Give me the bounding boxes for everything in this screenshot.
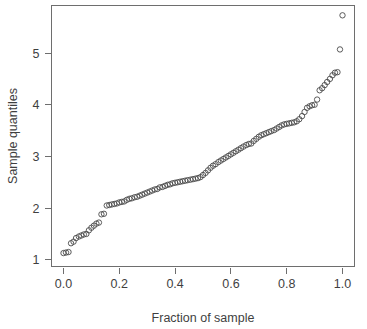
- y-axis-ticks: 12345: [33, 47, 51, 268]
- quantile-plot-figure: 0.00.20.40.60.81.0 12345 Fraction of sam…: [0, 0, 367, 329]
- x-tick-label: 0.6: [222, 277, 239, 291]
- y-tick-label: 3: [33, 150, 40, 164]
- data-point: [340, 13, 345, 18]
- data-point: [337, 47, 342, 52]
- x-tick-label: 0.2: [111, 277, 128, 291]
- x-axis-ticks: 0.00.20.40.60.81.0: [55, 268, 351, 291]
- plot-frame: [52, 6, 355, 267]
- x-tick-label: 0.4: [166, 277, 183, 291]
- data-point: [314, 97, 319, 102]
- x-tick-label: 0.0: [55, 277, 72, 291]
- x-axis-title: Fraction of sample: [152, 311, 255, 325]
- y-tick-label: 5: [33, 47, 40, 61]
- y-tick-label: 2: [33, 202, 40, 216]
- x-tick-label: 0.8: [278, 277, 295, 291]
- y-tick-label: 1: [33, 253, 40, 267]
- data-points-layer: [61, 13, 345, 256]
- y-tick-label: 4: [33, 98, 40, 112]
- x-tick-label: 1.0: [334, 277, 351, 291]
- y-axis-title: Sample quantiles: [6, 88, 20, 184]
- plot-canvas: 0.00.20.40.60.81.0 12345 Fraction of sam…: [0, 0, 367, 329]
